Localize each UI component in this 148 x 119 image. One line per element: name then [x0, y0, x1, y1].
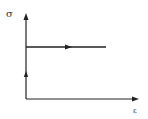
right-arrow-icon — [65, 45, 72, 50]
x-axis-arrowhead-icon — [132, 97, 139, 102]
y-axis-label: σ — [6, 8, 13, 19]
x-axis-label: ε — [133, 107, 137, 115]
up-arrow-icon — [24, 71, 28, 77]
y-axis-arrowhead-icon — [24, 13, 29, 20]
stress-strain-diagram: σ ε — [0, 0, 148, 119]
